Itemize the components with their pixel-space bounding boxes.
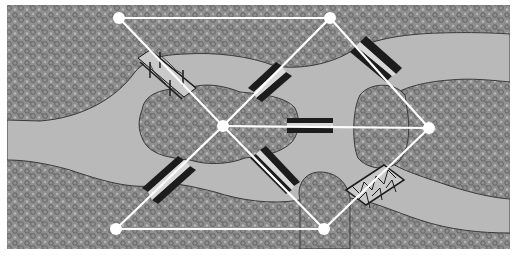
graph-node-north-bank-east bbox=[324, 12, 336, 24]
graph-node-island-kneiphof bbox=[217, 120, 229, 132]
graph-node-north-bank-west bbox=[113, 12, 125, 24]
graph-node-east-island bbox=[423, 122, 435, 134]
graph-node-south-bank-east bbox=[318, 223, 330, 235]
diagram-canvas bbox=[0, 0, 517, 258]
koenigsberg-bridges-diagram bbox=[0, 0, 517, 258]
graph-node-south-bank-west bbox=[110, 223, 122, 235]
bridge-4 bbox=[287, 118, 333, 133]
